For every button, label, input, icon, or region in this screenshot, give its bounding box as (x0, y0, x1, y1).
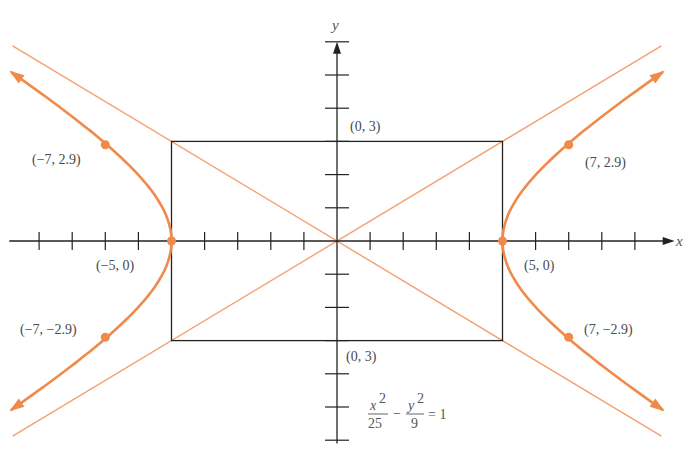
eq-y-num: y (406, 398, 415, 413)
eq-minus: − (393, 406, 401, 421)
point-label-7-neg2.9: (7, −2.9) (584, 322, 633, 338)
eq-y-den: 9 (411, 416, 418, 431)
data-point (564, 333, 573, 342)
eq-x-exp: 2 (379, 391, 386, 406)
point-label-neg7-neg2.9: (−7, −2.9) (20, 322, 77, 338)
hyperbola-arrowhead (650, 71, 665, 84)
equation: x 2 25 − y 2 9 = 1 (368, 391, 446, 431)
data-point (101, 140, 110, 149)
point-label-5-0: (5, 0) (524, 258, 555, 274)
eq-y-exp: 2 (417, 391, 424, 406)
point-label-neg7-2.9: (−7, 2.9) (32, 152, 81, 168)
point-label-7-2.9: (7, 2.9) (585, 155, 626, 171)
rect-label-top: (0, 3) (350, 119, 381, 135)
rect-label-bottom: (0, 3) (346, 349, 377, 365)
hyperbola-plot: x y (−7, 2.9) (7, 2.9) (−7, −2.9) (7, −2… (0, 0, 693, 464)
x-axis-label: x (675, 233, 683, 249)
eq-x-num: x (369, 398, 377, 413)
eq-rhs: = 1 (428, 407, 446, 422)
x-axis-arrow (663, 237, 675, 245)
y-axis-arrow (333, 42, 341, 54)
data-point (564, 140, 573, 149)
point-label-neg5-0: (−5, 0) (96, 258, 135, 274)
y-axis-label: y (330, 17, 339, 33)
hyperbola-arrowhead (9, 398, 24, 411)
data-point (101, 333, 110, 342)
data-point (498, 237, 507, 246)
data-point (167, 237, 176, 246)
eq-x-den: 25 (368, 416, 382, 431)
hyperbola-arrowhead (650, 398, 665, 411)
axes (9, 42, 674, 444)
hyperbola-arrowhead (9, 71, 24, 84)
